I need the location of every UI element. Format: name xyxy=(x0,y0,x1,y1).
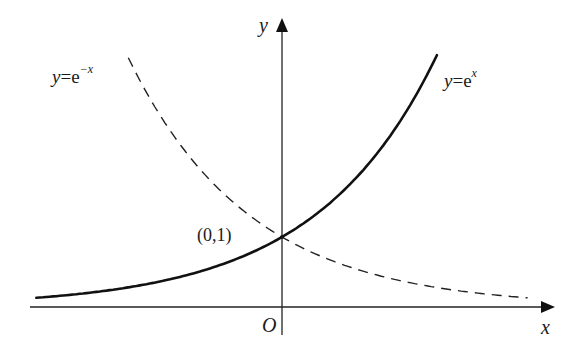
intersection-point xyxy=(280,235,284,239)
point-label: (0,1) xyxy=(197,225,232,246)
exponential-graph xyxy=(0,0,579,354)
curve-exp-neg xyxy=(128,58,527,298)
label-exp-eq: = xyxy=(452,70,463,91)
label-exp-neg-eq: = xyxy=(60,66,71,87)
x-axis-arrow-icon xyxy=(541,301,555,313)
y-axis-label: y xyxy=(259,14,268,37)
label-exp: y=ex xyxy=(444,70,477,92)
label-exp-neg-exp: −x xyxy=(80,62,93,76)
origin-label: O xyxy=(262,314,276,337)
label-exp-base: e xyxy=(463,70,471,91)
label-exp-neg-base: e xyxy=(71,66,79,87)
curve-exp xyxy=(36,55,437,298)
y-axis-arrow-icon xyxy=(276,18,288,32)
x-axis-label: x xyxy=(541,316,550,339)
label-exp-neg: y=e−x xyxy=(52,66,93,88)
label-exp-exp: x xyxy=(472,66,477,80)
